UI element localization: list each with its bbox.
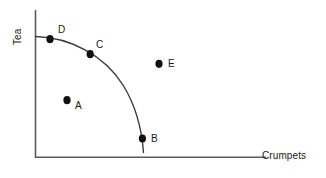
marker-b (139, 134, 146, 142)
marker-d (46, 35, 53, 43)
y-axis-label: Tea (12, 19, 23, 45)
point-label-b: B (151, 133, 158, 144)
point-label-c: C (96, 39, 103, 50)
marker-e (155, 60, 162, 68)
point-label-e: E (168, 58, 175, 69)
marker-c (87, 50, 94, 58)
x-axis-label: Crumpets (262, 150, 306, 161)
marker-a (63, 96, 70, 104)
point-label-a: A (75, 100, 82, 111)
ppf-chart: Tea Crumpets D C E A B (0, 0, 326, 178)
point-label-d: D (58, 24, 65, 35)
